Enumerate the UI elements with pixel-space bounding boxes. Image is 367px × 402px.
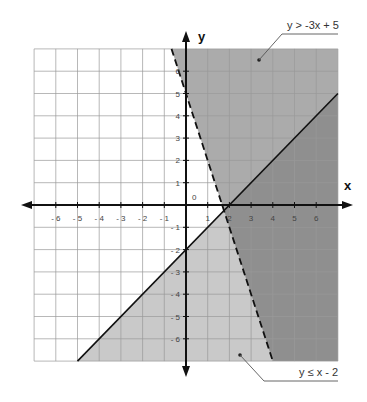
x-tick-label: 5 — [292, 214, 297, 223]
x-axis-right-arrow-icon — [342, 201, 353, 209]
y-tick-label: 4 — [176, 112, 181, 121]
y-tick-label: 1 — [176, 179, 181, 188]
callout-top-text: y > -3x + 5 — [287, 19, 339, 31]
x-tick-label: - 4 — [95, 214, 105, 223]
y-tick-label: - 5 — [171, 313, 181, 322]
x-tick-label: - 2 — [138, 214, 148, 223]
y-tick-label: - 3 — [171, 268, 181, 277]
y-tick-label: - 1 — [171, 223, 181, 232]
y-tick-label: 6 — [176, 67, 181, 76]
y-axis-label: y — [198, 29, 206, 44]
x-tick-label: - 1 — [160, 214, 170, 223]
y-tick-label: 3 — [176, 134, 181, 143]
x-tick-label: - 6 — [51, 214, 61, 223]
y-tick-label: 5 — [176, 90, 181, 99]
x-tick-label: - 5 — [73, 214, 83, 223]
callout-bottom-text: y ≤ x - 2 — [299, 366, 338, 378]
origin-label: 0 — [192, 193, 197, 202]
x-tick-label: 6 — [314, 214, 319, 223]
y-axis-down-arrow-icon — [182, 366, 190, 377]
x-tick-label: 1 — [205, 214, 210, 223]
x-tick-label: 4 — [271, 214, 276, 223]
inequality-graph: - 6- 5- 4- 3- 2- 1123456654321- 1- 2- 3-… — [0, 0, 367, 402]
x-tick-label: 3 — [249, 214, 254, 223]
x-axis-left-arrow-icon — [21, 201, 32, 209]
x-tick-label: 2 — [227, 214, 232, 223]
y-tick-label: 2 — [176, 156, 181, 165]
y-tick-label: - 2 — [171, 246, 181, 255]
x-tick-label: - 3 — [116, 214, 126, 223]
y-tick-label: - 4 — [171, 290, 181, 299]
y-tick-label: - 6 — [171, 335, 181, 344]
x-axis-label: x — [344, 178, 352, 193]
y-axis-up-arrow-icon — [182, 31, 190, 42]
